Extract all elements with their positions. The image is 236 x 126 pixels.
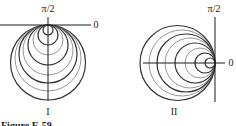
panel-i-label: I [46, 106, 49, 117]
panel-ii-pi-half-label: π/2 [208, 3, 221, 14]
panel-ii-label: II [171, 106, 178, 117]
panel-i-pi-half-label: π/2 [42, 3, 55, 14]
panel-ii-zero-label: 0 [229, 57, 234, 68]
panel-i-zero-label: 0 [94, 19, 99, 30]
figure-caption: Figure E-59 [1, 120, 52, 126]
polar-figure: π/2 0 I π/2 0 II Figure E-59 [0, 0, 236, 126]
